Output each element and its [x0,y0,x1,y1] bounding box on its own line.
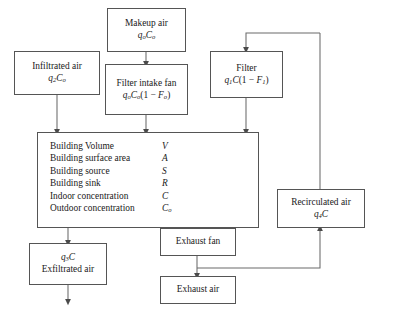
building-row: Building Volume V [50,140,258,152]
building-row-symbol: A [162,152,168,164]
diagram-canvas: Makeup air qoCo Infiltrated air q2Co Fil… [0,0,394,318]
box-infiltrated-air[interactable]: Infiltrated air q2Co [14,51,100,95]
building-row-symbol: Co [162,202,172,215]
building-row: Outdoor concentration Co [50,202,258,215]
building-row-label: Indoor concentration [50,190,162,202]
infiltrated-air-label: Infiltrated air [32,61,82,73]
box-exhaust-fan[interactable]: Exhaust fan [160,228,236,256]
connector-riser-to-filter [246,33,320,50]
filter-intake-fan-expression: qoCo(1 − Fo) [123,90,171,102]
building-row: Indoor concentration C [50,190,258,202]
filter-label: Filter [236,63,256,75]
infiltrated-air-expression: q2Co [48,73,66,85]
box-building-volume[interactable]: Building Volume V Building surface area … [37,132,259,228]
box-filter[interactable]: Filter q1C(1 − F1) [210,51,283,98]
building-row: Building source S [50,165,258,177]
filter-expression: q1C(1 − F1) [224,75,268,87]
recirculated-air-label: Recirculated air [291,197,351,209]
box-exfiltrated-air[interactable]: q3C Exfiltrated air [29,243,107,285]
exfiltrated-air-expression: q3C [61,252,75,264]
exfiltrated-air-label: Exfiltrated air [42,264,94,276]
filter-intake-fan-label: Filter intake fan [117,78,177,90]
building-row-label: Building source [50,165,162,177]
building-row-symbol: C [162,190,168,202]
building-row-label: Building Volume [50,140,162,152]
makeup-air-label: Makeup air [125,18,168,30]
box-exhaust-air[interactable]: Exhaust air [160,276,236,304]
building-row-label: Outdoor concentration [50,202,162,215]
recirculated-air-expression: q4C [314,209,328,221]
building-row: Building surface area A [50,152,258,164]
building-row-symbol: S [162,165,167,177]
building-row-symbol: R [162,177,168,189]
building-row-label: Building sink [50,177,162,189]
makeup-air-expression: qoCo [138,30,156,42]
building-row-symbol: V [162,140,168,152]
box-recirculated-air[interactable]: Recirculated air q4C [277,189,365,228]
box-filter-intake-fan[interactable]: Filter intake fan qoCo(1 − Fo) [105,64,188,115]
box-makeup-air[interactable]: Makeup air qoCo [107,8,186,52]
building-row: Building sink R [50,177,258,189]
exhaust-air-label: Exhaust air [177,284,219,296]
building-row-label: Building surface area [50,152,162,164]
exhaust-fan-label: Exhaust fan [176,236,221,248]
